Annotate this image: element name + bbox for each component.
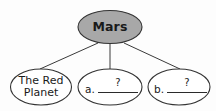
item-letter-a: a.: [85, 83, 95, 95]
connector-line-node-b: [124, 43, 180, 69]
answer-blank-a[interactable]: ?: [98, 76, 138, 98]
question-mark-icon-a: ?: [115, 76, 120, 89]
connector-line-red-planet: [40, 43, 98, 69]
answer-rule-b: [167, 92, 207, 93]
item-letter-b: b.: [154, 83, 164, 95]
answer-rule-a: [98, 92, 138, 93]
node-label-node-b: b. ?: [147, 69, 211, 105]
node-ellipse-red-planet[interactable]: [11, 69, 72, 105]
concept-map-canvas: Mars The Red Planet a. ? b. ?: [0, 0, 216, 111]
node-ellipse-mars[interactable]: [78, 11, 142, 44]
node-label-node-a: a. ?: [78, 69, 142, 105]
question-mark-icon-b: ?: [184, 76, 189, 89]
answer-blank-b[interactable]: ?: [167, 76, 207, 98]
